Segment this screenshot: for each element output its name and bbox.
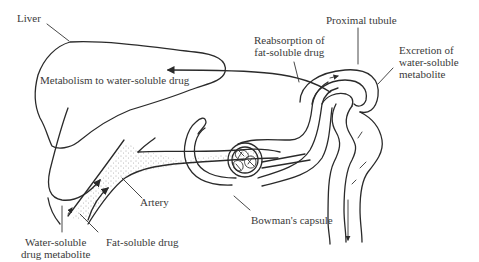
label-bowmans-capsule: Bowman's capsule bbox=[251, 214, 333, 226]
excretion-leader-line bbox=[378, 68, 393, 84]
tubule-flow-ticks bbox=[352, 132, 366, 184]
bowmans-capsule bbox=[184, 82, 338, 186]
liver-leader-line bbox=[47, 24, 69, 41]
liver-shape bbox=[35, 24, 225, 148]
label-water-soluble-metabolite: Water-soluble drug metabolite bbox=[21, 236, 90, 260]
label-reabsorption-line1: Reabsorption of bbox=[254, 34, 325, 46]
label-excretion: Excretion of water-soluble metabolite bbox=[399, 44, 459, 80]
label-metabolism: Metabolism to water-soluble drug bbox=[40, 74, 189, 86]
label-artery: Artery bbox=[140, 196, 169, 208]
drug-elimination-diagram: Liver Metabolism to water-soluble drug R… bbox=[0, 0, 479, 262]
label-liver: Liver bbox=[17, 12, 41, 24]
label-fat-soluble-drug: Fat-soluble drug bbox=[106, 236, 178, 248]
metabolite-exit-line bbox=[48, 198, 60, 224]
label-reabsorption: Reabsorption of fat-soluble drug bbox=[254, 34, 325, 58]
bowmans-leader-line bbox=[234, 196, 250, 210]
label-excretion-line2: water-soluble bbox=[399, 56, 459, 68]
metabolite-flow-arrow bbox=[49, 108, 101, 200]
label-excretion-line1: Excretion of bbox=[399, 44, 459, 56]
artery-leader-line bbox=[122, 178, 142, 198]
label-water-soluble-line2: drug metabolite bbox=[21, 248, 90, 260]
label-proximal-tubule: Proximal tubule bbox=[326, 14, 397, 26]
label-water-soluble-line1: Water-soluble bbox=[21, 236, 90, 248]
diagram-drawing bbox=[0, 0, 479, 262]
reabsorption-leader-line bbox=[294, 62, 299, 82]
label-excretion-line3: metabolite bbox=[399, 68, 459, 80]
label-reabsorption-line2: fat-soluble drug bbox=[254, 46, 325, 58]
